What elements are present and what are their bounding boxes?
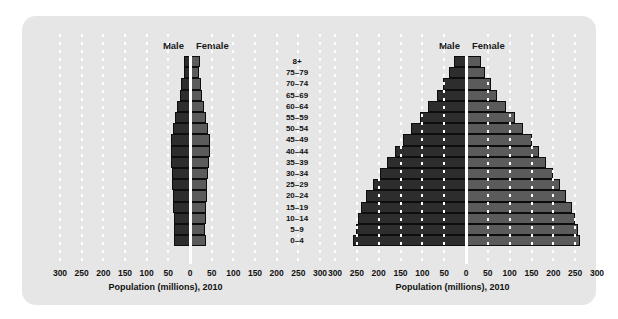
gridline	[167, 34, 169, 266]
pyramid-row	[22, 157, 309, 168]
female-bar	[466, 56, 481, 67]
female-bar	[466, 224, 578, 235]
male-bar	[449, 67, 466, 78]
age-group-label: 20–24	[267, 190, 327, 201]
plot-area-left	[22, 56, 309, 264]
female-bar	[190, 235, 206, 246]
x-axis-tick-label: 150	[248, 268, 262, 278]
gridline	[59, 34, 61, 266]
female-bar	[190, 202, 206, 213]
age-group-label: 5–9	[267, 224, 327, 235]
male-bar	[356, 224, 466, 235]
x-axis-tick-label: 300	[590, 268, 604, 278]
gridline	[574, 34, 576, 266]
male-bar	[395, 146, 466, 157]
gridline	[443, 34, 445, 266]
age-group-label: 50–54	[267, 123, 327, 134]
female-bar	[190, 123, 208, 134]
x-axis-tick-label: 300	[328, 268, 342, 278]
x-axis-tick-label: 200	[270, 268, 284, 278]
male-bar	[411, 123, 466, 134]
x-axis-tick-label: 250	[350, 268, 364, 278]
female-bar	[190, 134, 210, 145]
male-bar	[437, 90, 466, 101]
x-axis-tick-label: 100	[415, 268, 429, 278]
age-group-label: 40–44	[267, 146, 327, 157]
axis-title-left: Population (millions), 2010	[22, 282, 309, 292]
gridline	[552, 34, 554, 266]
pyramid-row	[22, 90, 309, 101]
gridline	[102, 34, 104, 266]
age-group-label: 35–39	[267, 157, 327, 168]
female-bar	[466, 112, 515, 123]
pyramid-row	[22, 112, 309, 123]
female-bar	[190, 78, 201, 89]
pyramid-row	[22, 202, 309, 213]
x-axis-tick-label: 50	[439, 268, 448, 278]
female-bar	[466, 134, 532, 145]
male-bar	[173, 123, 190, 134]
male-bar	[358, 213, 466, 224]
pyramid-row	[22, 78, 309, 89]
female-bar	[466, 179, 560, 190]
x-axis-tick-label: 150	[524, 268, 538, 278]
male-bar	[171, 134, 190, 145]
x-axis-tick-label: 200	[96, 268, 110, 278]
male-bar	[172, 179, 190, 190]
pyramid-row	[22, 56, 309, 67]
pyramid-row	[22, 168, 309, 179]
pyramid-row	[22, 123, 309, 134]
age-group-label: 10–14	[267, 213, 327, 224]
x-axis-tick-label: 0	[188, 268, 193, 278]
x-axis-tick-label: 100	[226, 268, 240, 278]
age-group-label: 75–79	[267, 67, 327, 78]
male-bar	[403, 134, 466, 145]
pyramid-row	[22, 190, 309, 201]
female-legend-label-left: Female	[190, 40, 229, 51]
x-axis-tick-label: 50	[207, 268, 216, 278]
female-bar	[466, 90, 497, 101]
age-group-label: 0–4	[267, 235, 327, 246]
female-bar	[190, 101, 204, 112]
age-group-label: 55–59	[267, 112, 327, 123]
gridline	[421, 34, 423, 266]
female-bar	[466, 67, 485, 78]
x-axis-tick-label: 300	[53, 268, 67, 278]
male-bar	[443, 78, 466, 89]
center-axis-right	[465, 56, 468, 264]
age-group-label: 70–74	[267, 78, 327, 89]
gridline	[81, 34, 83, 266]
pyramid-row	[22, 235, 309, 246]
male-bar	[173, 190, 190, 201]
x-axis-tick-label: 200	[372, 268, 386, 278]
age-group-label: 8+	[267, 56, 327, 67]
female-bar	[190, 190, 207, 201]
x-axis-tick-label: 250	[568, 268, 582, 278]
male-bar	[428, 101, 466, 112]
female-bar	[466, 202, 572, 213]
x-axis-tick-label: 100	[140, 268, 154, 278]
male-bar	[353, 235, 466, 246]
female-bar	[190, 179, 207, 190]
female-bar	[466, 146, 539, 157]
gridline	[232, 34, 234, 266]
gridline	[378, 34, 380, 266]
gridline	[334, 34, 336, 266]
male-bar	[173, 202, 190, 213]
female-bar	[466, 235, 580, 246]
female-bar	[190, 224, 205, 235]
male-bar	[172, 168, 190, 179]
gridline	[356, 34, 358, 266]
pyramid-row	[22, 101, 309, 112]
female-bar	[190, 213, 206, 224]
pyramid-row	[22, 67, 309, 78]
gridline	[596, 34, 598, 266]
x-axis-tick-label: 100	[503, 268, 517, 278]
female-bar	[190, 90, 202, 101]
gridline	[254, 34, 256, 266]
age-group-label: 45–49	[267, 134, 327, 145]
gridline	[509, 34, 511, 266]
female-legend-label-right: Female	[466, 40, 505, 51]
age-group-label: 15–19	[267, 202, 327, 213]
pyramid-row	[22, 179, 309, 190]
